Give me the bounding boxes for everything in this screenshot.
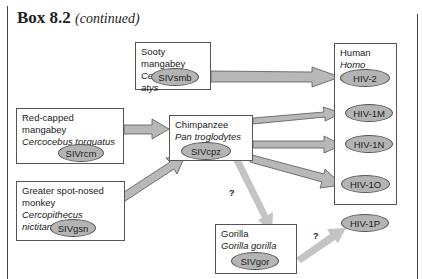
virus-oval-sivcpz: SIVcpz	[181, 142, 231, 160]
virus-oval-hiv-2: HIV-2	[340, 69, 390, 87]
host-common-name: Greater spot-nosed	[22, 185, 119, 197]
uncertain-mark-cpz-gor: ?	[229, 188, 235, 198]
arrow-cpz-gor	[233, 158, 273, 232]
virus-oval-hiv-1m: HIV-1M	[345, 104, 393, 122]
host-common-name: Gorilla	[221, 228, 291, 240]
arrow-gsn-cpz	[118, 156, 185, 203]
virus-oval-hiv-1n: HIV-1N	[345, 135, 393, 153]
host-common-name: Human	[340, 47, 391, 59]
arrow-cpz-1n	[253, 136, 342, 153]
uncertain-mark-gor-1p: ?	[313, 231, 319, 241]
arrow-cpz-1m	[253, 107, 342, 124]
virus-oval-sivrcm: SIVrcm	[58, 144, 104, 162]
virus-oval-sivgsn: SIVgsn	[50, 219, 96, 237]
virus-oval-sivsmb: SIVsmb	[151, 68, 199, 86]
host-latin-name: Gorilla gorilla	[221, 240, 291, 252]
virus-oval-hiv-1o: HIV-1O	[341, 175, 390, 193]
arrow-gor-1p	[296, 228, 346, 263]
arrow-rcm-cpz	[124, 119, 169, 139]
virus-oval-hiv-1p: HIV-1P	[341, 214, 389, 232]
host-common-name: Chimpanzee	[175, 119, 247, 131]
host-common-name: Red-capped mangabey	[22, 112, 118, 136]
arrow-cpz-1o	[250, 155, 342, 188]
virus-oval-sivgor: SIVgor	[231, 252, 279, 270]
host-common-name-line2: monkey	[22, 197, 119, 209]
arrow-smb-hiv2	[211, 67, 340, 87]
host-common-name: Sooty mangabey	[141, 46, 205, 70]
